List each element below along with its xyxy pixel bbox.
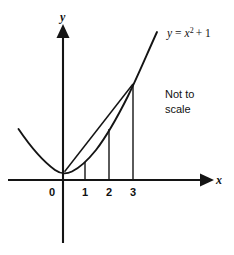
x-tick-label-2: 2 <box>106 186 112 198</box>
equation-equals: = <box>175 27 182 39</box>
y-axis-arrow-icon <box>57 24 70 38</box>
figure-container: 0 1 2 3 x y y=x2+ 1 Not to scale <box>0 0 234 255</box>
not-to-scale-note: Not to scale <box>165 88 194 115</box>
equation-lhs: y <box>166 27 173 40</box>
svg-text:y=x2+ 1: y=x2+ 1 <box>166 26 211 40</box>
note-line-2: scale <box>165 103 191 115</box>
note-line-1: Not to <box>165 88 194 100</box>
x-tick-label-3: 3 <box>130 186 136 198</box>
equation-exponent: 2 <box>190 26 194 35</box>
y-axis-label: y <box>58 10 66 24</box>
x-axis-arrow-icon <box>200 174 214 187</box>
equation-annotation: y=x2+ 1 <box>166 26 211 40</box>
x-tick-label-1: 1 <box>82 186 88 198</box>
x-axis-label: x <box>215 173 222 187</box>
x-tick-label-0: 0 <box>49 186 55 198</box>
graph-svg: 0 1 2 3 x y y=x2+ 1 Not to scale <box>0 0 234 255</box>
chord-line <box>65 84 134 172</box>
equation-plus-one: + 1 <box>196 27 211 39</box>
parabola-curve <box>19 32 158 173</box>
